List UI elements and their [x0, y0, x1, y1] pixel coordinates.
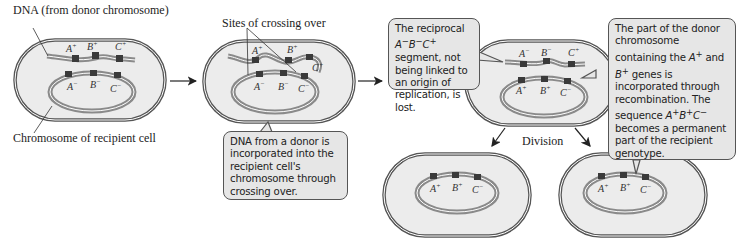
recipient-chromosome-label: Chromosome of recipient cell — [13, 131, 156, 146]
daughter-cell-right: A+ B+ C− — [560, 154, 706, 236]
callout-incorporated: The part of the donor chromosome contain… — [608, 18, 736, 160]
callout-crossing-over: DNA from a donor is incorporated into th… — [223, 131, 348, 200]
division-label: Division — [522, 134, 563, 149]
division-arrow-right — [575, 128, 590, 146]
donor-dna-label: DNA (from donor chromosome) — [13, 3, 169, 18]
cell-3: A− B− C+ A+ B+ C− — [466, 41, 616, 125]
callout-lost-segment: The reciprocal A−B−C+ segment, not being… — [388, 18, 480, 90]
daughter-cell-left: A+ B+ C− — [384, 154, 530, 236]
cell-1: A+ B+ C+ A− B− C− — [15, 28, 165, 133]
cell-2: A+ B+ C+ A− B− C− — [204, 28, 354, 122]
division-arrow-left — [492, 128, 505, 146]
crossing-sites-label: Sites of crossing over — [222, 16, 326, 31]
